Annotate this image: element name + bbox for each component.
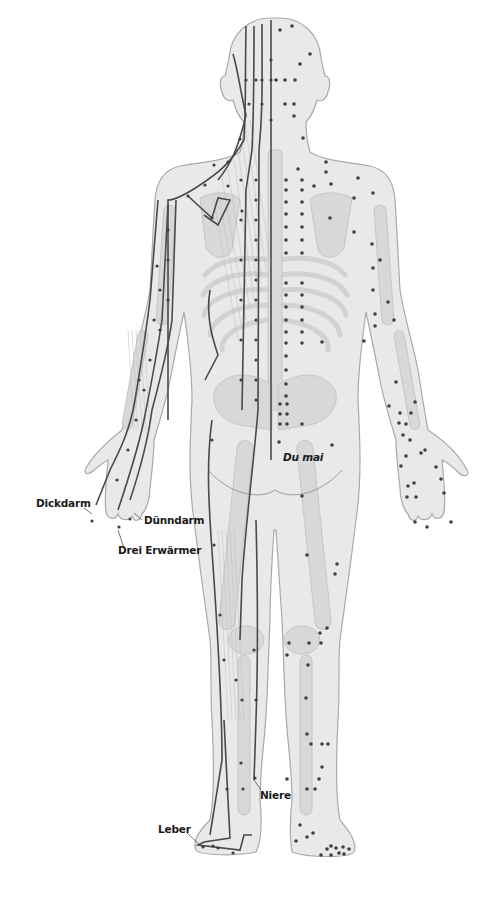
label-du-mai: Du mai <box>283 451 323 463</box>
head <box>85 18 468 857</box>
left-tibia <box>238 655 250 815</box>
label-niere: Niere <box>260 789 291 801</box>
right-knee <box>284 626 320 654</box>
spine <box>268 150 282 410</box>
label-duenndarm: Dünndarm <box>144 514 204 526</box>
label-leber: Leber <box>158 823 191 835</box>
body-silhouette <box>85 18 468 857</box>
label-dickdarm: Dickdarm <box>36 497 91 509</box>
label-drei-erwaermer: Drei Erwärmer <box>118 544 201 556</box>
meridian-diagram <box>0 0 499 905</box>
left-knee <box>228 626 264 654</box>
